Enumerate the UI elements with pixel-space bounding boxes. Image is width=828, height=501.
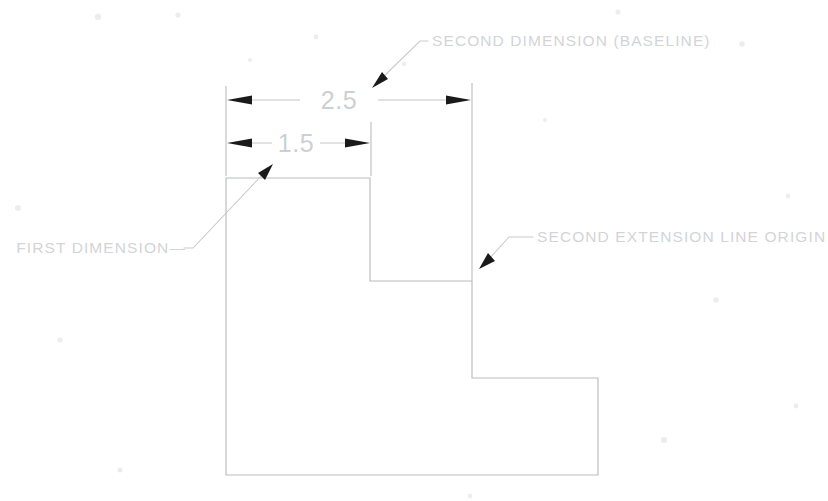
leader-second-dimension: SECOND DIMENSION (BASELINE) (372, 32, 711, 88)
annotation-second-dimension: SECOND DIMENSION (BASELINE) (432, 32, 711, 49)
leader-line-second-dimension (381, 41, 428, 79)
dimension-2-5: 2.5 (227, 86, 471, 114)
arrowhead-left-2-5 (227, 95, 252, 104)
technical-drawing-canvas: 2.5 1.5 SECOND DIMENSION (BASELINE) FIRS… (0, 0, 828, 501)
dimension-value-1-5: 1.5 (278, 129, 314, 157)
arrowhead-right-2-5 (446, 95, 471, 104)
annotation-second-extension-origin: SECOND EXTENSION LINE ORIGIN (537, 228, 826, 245)
dimension-1-5: 1.5 (227, 129, 370, 157)
arrowhead-left-1-5 (227, 138, 252, 147)
arrowhead-right-1-5 (345, 138, 370, 147)
cad-drawing-svg: 2.5 1.5 SECOND DIMENSION (BASELINE) FIRS… (0, 0, 828, 501)
leader-line-first-dimension (184, 172, 265, 248)
part-outline (226, 178, 598, 475)
leader-line-second-extension (489, 237, 533, 259)
dimension-value-2-5: 2.5 (321, 86, 357, 114)
annotation-first-dimension: FIRST DIMENSION— (16, 239, 186, 256)
leader-second-extension-origin: SECOND EXTENSION LINE ORIGIN (479, 228, 826, 269)
